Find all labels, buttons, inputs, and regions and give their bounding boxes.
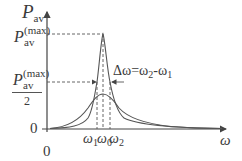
omega2-label: ω2 [109, 132, 124, 146]
bandwidth-text: Δω=ω [113, 63, 148, 78]
half-max-label-sub: av [23, 80, 33, 91]
fraction-bar [12, 92, 42, 93]
max-label: P [14, 29, 24, 45]
half-max-label: P [13, 72, 23, 88]
omega0-symbol: ω [97, 131, 107, 146]
y-axis-label: Pav [22, 2, 44, 21]
y-zero-label: 0 [30, 121, 38, 136]
max-label-sup: (max) [24, 25, 50, 36]
y-axis-label-sub: av [34, 12, 44, 24]
y-axis-label-main: P [22, 1, 34, 22]
omega2-symbol: ω [109, 131, 119, 146]
narrow-resonance-curve [50, 34, 222, 129]
max-label-sub: av [24, 37, 34, 48]
half-max-denominator: 2 [24, 95, 30, 107]
bandwidth-sub2: 2 [148, 69, 153, 80]
omega1-label: ω1 [83, 132, 98, 146]
half-max-label-sup: (max) [23, 68, 49, 79]
omega2-sub: 2 [119, 137, 124, 148]
resonance-curve-figure: Pav P (max) av P (max) av 2 0 0 ω ω1 ω0 … [0, 0, 242, 161]
bandwidth-sub1: 1 [167, 69, 172, 80]
origin-label: 0 [43, 144, 51, 159]
omega1-symbol: ω [83, 131, 93, 146]
bandwidth-annotation: Δω=ω2-ω1 [113, 64, 172, 78]
half-max-label-main: P [13, 71, 23, 88]
broad-resonance-curve [50, 94, 222, 129]
x-axis-label: ω [220, 133, 231, 148]
bandwidth-mid: -ω [153, 63, 167, 78]
max-label-main: P [14, 28, 24, 45]
